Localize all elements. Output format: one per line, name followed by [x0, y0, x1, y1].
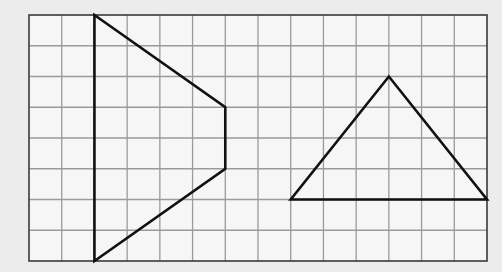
grid-diagram — [0, 0, 502, 272]
